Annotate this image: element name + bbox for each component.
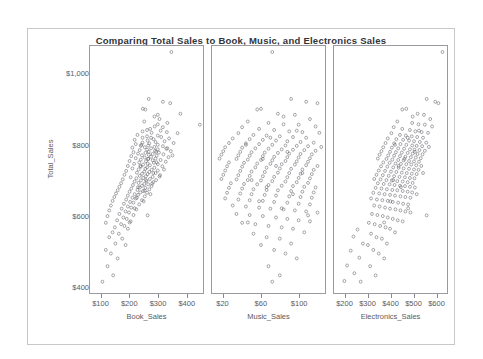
data-point [261,199,264,202]
electronics-sales-panel [333,45,448,294]
data-point [149,127,152,130]
data-point [218,157,221,160]
data-point [385,179,388,182]
data-point [156,123,159,126]
x-tick-mark [129,294,130,298]
data-point [148,177,151,180]
y-tick-label: $600 [43,211,89,220]
data-point [343,279,346,282]
data-point [256,183,259,186]
data-point [295,181,298,184]
data-point [137,152,140,155]
data-point [271,143,274,146]
data-point [250,151,253,154]
data-point [312,168,315,171]
data-point [358,256,361,259]
data-point [141,130,144,133]
data-point [130,155,133,158]
data-point [399,143,402,146]
data-point [429,118,432,121]
data-point [404,195,407,198]
data-point [416,152,419,155]
data-point [261,138,264,141]
data-point [379,224,382,227]
data-point [224,197,227,200]
data-point [125,198,128,201]
data-point [389,207,392,210]
data-point [169,102,172,105]
data-point [367,221,370,224]
data-point [441,50,444,53]
data-point [286,156,289,159]
data-point [139,158,142,161]
data-point [284,144,287,147]
data-point [387,154,390,157]
data-point [277,171,280,174]
data-point [267,224,270,227]
data-point [246,221,249,224]
data-point [310,196,313,199]
data-point [415,164,418,167]
data-point [132,151,135,154]
y-axis-ticks: $400$600$800$1,000 [28,29,89,344]
data-point [425,214,428,217]
data-point [271,280,274,283]
data-point [396,120,399,123]
x-axis-title: Music_Sales [211,312,326,321]
data-point [288,152,291,155]
x-tick-label: $400 [178,299,195,308]
data-point [392,166,395,169]
data-point [278,135,281,138]
data-point [393,183,396,186]
data-point [299,172,302,175]
data-point [384,206,387,209]
data-point [120,207,123,210]
data-point [254,223,257,226]
data-point [122,202,125,205]
data-point [390,146,393,149]
data-point [160,136,163,139]
data-point [125,217,128,220]
data-point [120,182,123,185]
data-point [222,173,225,176]
x-tick-mark [345,294,346,298]
data-point [106,265,109,268]
data-point [402,138,405,141]
x-tick-label: $300 [359,299,376,308]
data-point [375,173,378,176]
data-point [290,242,293,245]
data-point [224,169,227,172]
x-tick-label: $200 [336,299,353,308]
data-point [431,125,434,128]
data-point [421,153,424,156]
x-tick-mark [299,294,300,298]
data-point [395,138,398,141]
data-point [156,143,159,146]
data-point [271,50,274,53]
chart-outer-frame: Comparing Total Sales to Book, Music, an… [27,28,455,345]
data-point [132,201,135,204]
data-point [293,209,296,212]
x-tick-mark [261,294,262,298]
data-point [226,191,229,194]
data-point [370,232,373,235]
data-point [423,149,426,152]
data-point [399,155,402,158]
data-point [147,183,150,186]
data-point [116,219,119,222]
data-point [377,252,380,255]
y-tick-label: $400 [43,282,89,291]
data-point [382,182,385,185]
data-point [198,123,201,126]
data-point [418,149,421,152]
data-point [126,164,129,167]
data-point [374,186,377,189]
data-point [301,168,304,171]
data-point [293,113,296,116]
data-point [316,102,319,105]
data-point [267,121,270,124]
data-point [299,195,302,198]
data-point [150,136,153,139]
data-point [248,174,251,177]
data-point [248,138,251,141]
